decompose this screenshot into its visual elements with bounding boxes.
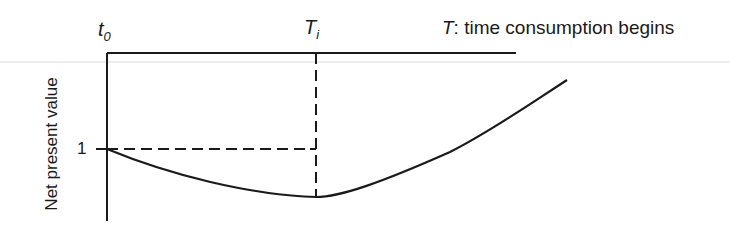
t0-label: t0 bbox=[98, 18, 111, 44]
legend-symbol: T bbox=[442, 17, 454, 38]
npv-diagram: t0 Ti T: time consumption begins 1 Net p… bbox=[0, 0, 730, 231]
y-tick-label-1: 1 bbox=[77, 139, 86, 159]
legend-text: : time consumption begins bbox=[454, 17, 675, 38]
x-axis-legend: T: time consumption begins bbox=[442, 17, 674, 39]
y-axis-label: Net present value bbox=[42, 77, 62, 210]
ti-label: Ti bbox=[304, 16, 319, 42]
npv-curve bbox=[107, 80, 567, 197]
